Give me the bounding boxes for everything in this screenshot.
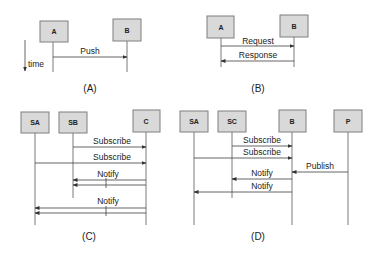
caption-a: (A) xyxy=(83,83,96,94)
message-label-notify-sc: Notify xyxy=(251,168,273,178)
panel-b: A B Request Response (B) xyxy=(207,15,308,94)
participant-label-a: A xyxy=(218,24,223,31)
participant-label-sb: SB xyxy=(68,119,78,126)
message-label-subscribe-sb: Subscribe xyxy=(93,136,131,146)
message-label-notify-sa: Notify xyxy=(251,181,273,191)
panel-d: SA SC B P Subscribe Subscribe Publish No… xyxy=(180,110,362,242)
message-label-subscribe-sa: Subscribe xyxy=(93,152,131,162)
participant-label-a: A xyxy=(51,28,56,35)
time-label: time xyxy=(28,59,44,69)
message-label-subscribe-sa: Subscribe xyxy=(243,147,281,157)
panel-c: SA SB C Subscribe Subscribe Notify Notif… xyxy=(21,110,160,242)
message-label-request: Request xyxy=(242,36,274,46)
participant-label-sc: SC xyxy=(227,118,237,125)
participant-label-sa: SA xyxy=(189,118,199,125)
message-label-push: Push xyxy=(80,46,100,56)
message-label-notify-sb: Notify xyxy=(97,169,119,179)
participant-label-b: B xyxy=(124,27,129,34)
message-label-publish: Publish xyxy=(306,161,334,171)
sequence-diagram-figure: time A B Push (A) A B Request Response (… xyxy=(0,0,381,256)
participant-label-b: B xyxy=(291,23,296,30)
caption-c: (C) xyxy=(82,231,96,242)
participant-label-c: C xyxy=(143,118,148,125)
caption-b: (B) xyxy=(251,83,264,94)
panel-a: time A B Push (A) xyxy=(25,19,141,94)
message-label-notify-sa: Notify xyxy=(97,196,119,206)
caption-d: (D) xyxy=(251,231,265,242)
participant-label-p: P xyxy=(346,118,351,125)
message-label-subscribe-sc: Subscribe xyxy=(243,135,281,145)
participant-label-b: B xyxy=(289,118,294,125)
participant-label-sa: SA xyxy=(30,119,40,126)
message-label-response: Response xyxy=(239,50,278,60)
